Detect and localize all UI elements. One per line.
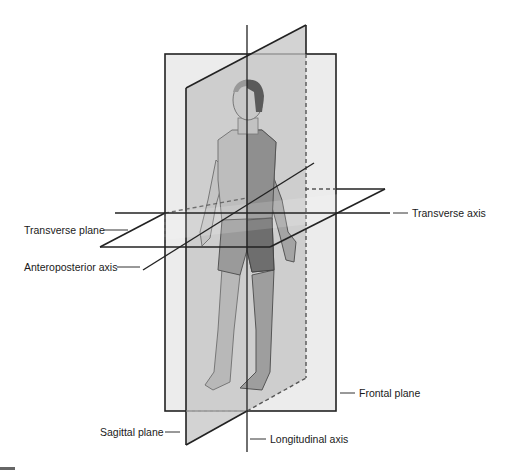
transverse-axis-label: Transverse axis [412, 207, 486, 219]
sagittal-plane-label: Sagittal plane [100, 426, 164, 438]
frontal-plane-label: Frontal plane [359, 387, 420, 399]
figure-marker-bar [0, 467, 15, 470]
anteroposterior-axis-label: Anteroposterior axis [24, 261, 117, 273]
anatomical-planes-diagram [0, 0, 506, 474]
longitudinal-axis-label: Longitudinal axis [270, 433, 348, 445]
transverse-plane-label: Transverse plane [24, 224, 105, 236]
